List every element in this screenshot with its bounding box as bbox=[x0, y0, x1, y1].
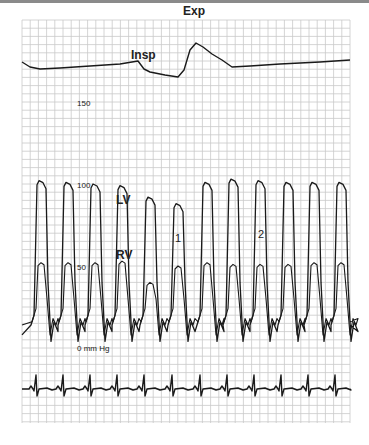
traces bbox=[22, 43, 358, 396]
exp-label: Exp bbox=[183, 4, 205, 18]
insp-label: Insp bbox=[131, 48, 156, 62]
lv-label: LV bbox=[116, 193, 130, 207]
beat-1-label: 1 bbox=[175, 232, 181, 244]
scale-label-150: 150 bbox=[77, 99, 91, 108]
beat-2-label: 2 bbox=[258, 228, 264, 240]
lv-pressure-trace bbox=[22, 179, 358, 341]
scale-label-100: 100 bbox=[77, 181, 91, 190]
scale-label-0: 0 mm Hg bbox=[77, 344, 109, 353]
scale-label-50: 50 bbox=[77, 263, 86, 272]
hemodynamic-chart: 150 100 50 0 mm Hg Insp Exp LV RV 1 2 bbox=[0, 0, 369, 445]
rv-label: RV bbox=[116, 248, 132, 262]
grid bbox=[22, 20, 350, 423]
